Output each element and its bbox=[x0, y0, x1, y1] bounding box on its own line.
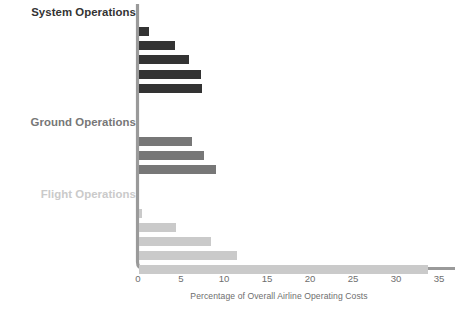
bar bbox=[139, 84, 202, 93]
bar bbox=[139, 165, 216, 174]
bar bbox=[139, 223, 176, 232]
x-tick-5: 5 bbox=[161, 273, 201, 284]
x-tick-25: 25 bbox=[333, 273, 373, 284]
x-tick-0: 0 bbox=[118, 273, 158, 284]
x-tick-15: 15 bbox=[247, 273, 287, 284]
bar bbox=[139, 151, 204, 160]
group-heading-ground-operations: Ground Operations bbox=[0, 116, 136, 129]
bar bbox=[139, 70, 201, 79]
bar bbox=[139, 237, 211, 246]
x-tick-20: 20 bbox=[290, 273, 330, 284]
bar bbox=[139, 251, 237, 260]
bar bbox=[139, 41, 175, 50]
x-tick-30: 30 bbox=[376, 273, 416, 284]
bar bbox=[139, 209, 142, 218]
bar bbox=[139, 27, 149, 36]
x-tick-10: 10 bbox=[204, 273, 244, 284]
x-axis-title: Percentage of Overall Airline Operating … bbox=[0, 291, 468, 301]
bar-chart: System OperationsIT and communicationsPa… bbox=[0, 0, 468, 316]
bar bbox=[139, 137, 192, 146]
x-tick-35: 35 bbox=[419, 273, 459, 284]
plot-area: System OperationsIT and communicationsPa… bbox=[0, 0, 468, 316]
group-heading-flight-operations: Flight Operations bbox=[0, 188, 136, 201]
bar bbox=[139, 55, 189, 64]
group-heading-system-operations: System Operations bbox=[0, 6, 136, 19]
